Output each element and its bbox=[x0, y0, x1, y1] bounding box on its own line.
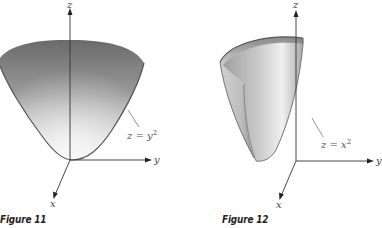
y-axis-label: y bbox=[154, 155, 160, 165]
equation-label: z = x2 bbox=[321, 139, 351, 150]
z-axis-arrow bbox=[294, 10, 299, 17]
x-axis bbox=[55, 160, 70, 195]
x-axis-label: x bbox=[50, 199, 56, 209]
x-axis-label: x bbox=[276, 200, 282, 210]
figure-11: z y x z = y2 Figure 11 bbox=[0, 0, 190, 228]
figure-caption: Figure 12 bbox=[222, 214, 268, 225]
y-axis-arrow bbox=[145, 158, 152, 163]
equation-label: z = y2 bbox=[127, 130, 157, 141]
equation-leader bbox=[128, 110, 139, 127]
equation-leader bbox=[312, 118, 323, 137]
z-axis-label: z bbox=[67, 0, 72, 10]
y-axis-arrow bbox=[367, 159, 374, 164]
figure-12: z y x z = x2 Figure 12 bbox=[190, 0, 380, 228]
figure-11-graphic bbox=[0, 0, 190, 228]
y-axis-label: y bbox=[376, 156, 382, 166]
z-axis-label: z bbox=[293, 0, 298, 10]
figure-12-graphic bbox=[190, 0, 380, 228]
x-axis bbox=[281, 161, 296, 196]
figure-caption: Figure 11 bbox=[0, 214, 46, 225]
